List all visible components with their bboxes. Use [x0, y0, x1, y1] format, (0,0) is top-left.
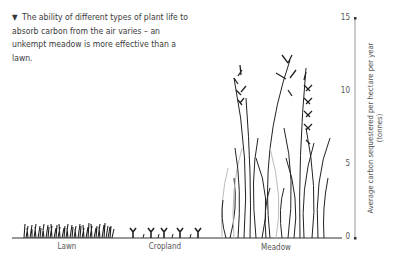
category-cropland: Cropland — [125, 242, 205, 251]
y-tick-5: 5 — [336, 159, 350, 168]
y-tick-15: 15 — [336, 13, 350, 22]
cropland-sprout-icon — [130, 228, 201, 238]
y-tick-0: 0 — [336, 232, 350, 241]
lawn-grass-icon — [24, 223, 114, 238]
chart-graphic — [0, 0, 401, 267]
y-tick-10: 10 — [336, 86, 350, 95]
y-axis-label: Average carbon sequestered per hectare p… — [366, 18, 384, 238]
meadow-grass-icon — [222, 55, 330, 238]
category-meadow: Meadow — [236, 243, 316, 252]
category-lawn: Lawn — [27, 242, 107, 251]
